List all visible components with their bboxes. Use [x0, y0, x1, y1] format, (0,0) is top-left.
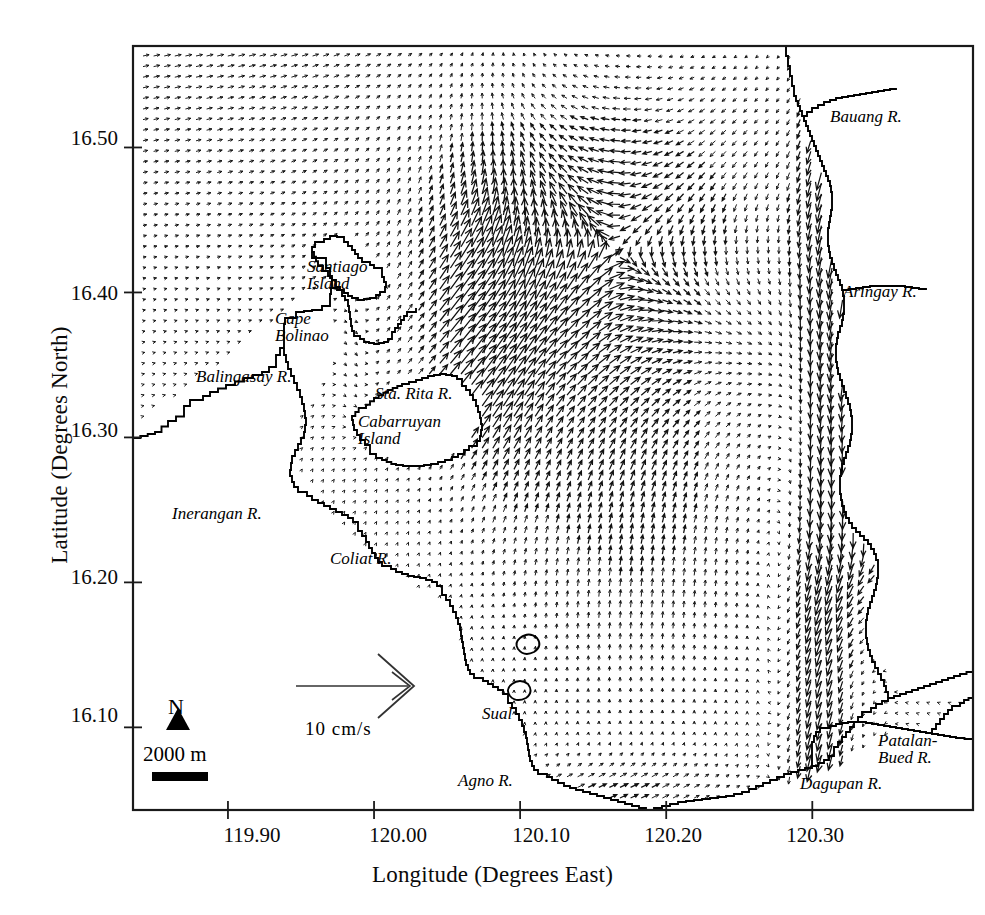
- current-vector: [623, 236, 630, 244]
- current-vector: [587, 601, 590, 607]
- current-vector: [768, 321, 771, 325]
- current-vector: [917, 724, 920, 726]
- current-vector: [721, 162, 726, 168]
- current-vector: [556, 580, 559, 586]
- current-vector: [355, 106, 359, 109]
- current-vector: [501, 132, 505, 141]
- current-vector-field: [141, 53, 962, 799]
- river-patalan-bued-inlet: [932, 696, 973, 734]
- current-vector: [778, 447, 781, 450]
- current-vector: [440, 194, 444, 204]
- current-vector: [684, 350, 692, 353]
- current-vector: [541, 104, 546, 109]
- current-vector: [704, 257, 707, 265]
- current-vector: [460, 562, 463, 565]
- current-vector: [281, 288, 284, 291]
- current-vector: [154, 171, 159, 174]
- current-vector: [227, 341, 230, 344]
- current-vector: [662, 379, 670, 384]
- current-vector: [858, 586, 864, 595]
- current-vector: [757, 583, 760, 586]
- current-vector: [334, 159, 338, 162]
- y-tick-label-1630: 16.30: [8, 418, 118, 443]
- current-vector: [280, 298, 283, 301]
- current-vector: [757, 712, 760, 715]
- current-vector: [778, 723, 781, 726]
- current-vector: [735, 657, 738, 660]
- current-vector: [185, 107, 191, 110]
- current-vector: [689, 194, 695, 201]
- current-vector: [712, 204, 716, 212]
- current-vector: [321, 426, 324, 429]
- current-vector: [470, 648, 473, 651]
- current-vector: [623, 108, 630, 111]
- current-vector: [281, 203, 285, 205]
- current-vector: [154, 182, 158, 185]
- current-vector: [789, 469, 792, 472]
- current-vector: [534, 733, 537, 736]
- current-vector: [164, 150, 169, 153]
- current-vector: [722, 88, 726, 91]
- current-vector: [630, 557, 633, 565]
- current-vector: [656, 98, 662, 101]
- current-vector: [556, 406, 563, 416]
- current-vector: [556, 450, 561, 459]
- current-vector: [207, 150, 212, 153]
- current-vector: [652, 279, 661, 285]
- current-vector: [249, 75, 255, 78]
- current-vector: [581, 117, 588, 120]
- current-vector: [598, 753, 601, 756]
- current-vector: [439, 74, 442, 78]
- current-vector: [387, 263, 390, 268]
- current-vector: [154, 245, 157, 248]
- current-vector: [787, 639, 789, 644]
- current-vector: [595, 55, 599, 58]
- current-vector: [705, 463, 708, 470]
- current-vector: [766, 173, 769, 178]
- current-vector: [787, 130, 790, 136]
- current-vector: [503, 549, 506, 554]
- current-vector: [530, 143, 535, 152]
- current-vector: [608, 601, 611, 608]
- current-vector: [313, 139, 318, 141]
- current-vector: [503, 460, 508, 470]
- current-vector: [735, 603, 738, 607]
- current-vector: [666, 120, 673, 123]
- current-vector: [556, 526, 559, 533]
- current-vector: [238, 96, 244, 99]
- current-vector: [702, 226, 705, 234]
- current-vector: [260, 277, 263, 280]
- axis-ticks: [124, 147, 812, 819]
- current-vector: [216, 352, 219, 354]
- current-vector: [342, 490, 345, 493]
- current-vector: [705, 402, 711, 406]
- current-vector: [798, 310, 802, 320]
- current-vector: [471, 529, 474, 533]
- current-vector: [492, 615, 495, 618]
- current-vector: [619, 204, 630, 208]
- current-vector: [564, 54, 567, 57]
- current-vector: [524, 603, 527, 607]
- current-vector: [249, 192, 253, 194]
- current-vector: [673, 390, 680, 395]
- current-vector: [397, 338, 400, 343]
- current-vector: [736, 496, 738, 501]
- current-vector: [667, 215, 673, 223]
- current-vector: [561, 105, 567, 109]
- current-vector: [885, 721, 888, 724]
- current-vector: [662, 774, 668, 777]
- current-vector: [798, 321, 802, 331]
- current-vector: [270, 54, 276, 57]
- current-vector: [228, 54, 235, 57]
- current-vector: [493, 517, 496, 523]
- current-vector: [641, 795, 648, 798]
- current-vector: [406, 532, 408, 535]
- current-vector: [609, 428, 615, 437]
- current-vector: [260, 128, 265, 131]
- current-vector: [609, 535, 612, 544]
- current-vector: [699, 130, 705, 134]
- current-vector: [652, 359, 662, 364]
- current-vector: [196, 128, 201, 131]
- current-vector: [603, 97, 610, 100]
- current-vector: [633, 129, 641, 132]
